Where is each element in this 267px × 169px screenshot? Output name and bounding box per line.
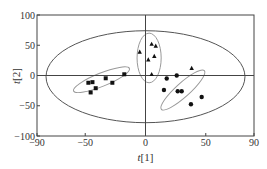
- square-marker: [90, 80, 94, 84]
- y-tick-label: −50: [19, 100, 35, 111]
- square-marker: [89, 90, 93, 94]
- x-tick-label: −50: [77, 137, 93, 148]
- circle-marker: [175, 73, 179, 77]
- x-axis-label: t[1]: [138, 151, 154, 163]
- triangle-marker: [154, 43, 158, 47]
- score-scatter-plot: −90−5005090 100500−50−100 t[1] t[2]: [0, 0, 267, 169]
- y-tick-label: 0: [30, 70, 35, 81]
- y-tick-label: −100: [14, 131, 35, 142]
- triangle-marker: [189, 66, 193, 70]
- circle-marker: [165, 76, 169, 80]
- x-tick-label: 50: [201, 137, 211, 148]
- circle-marker: [189, 102, 193, 106]
- circle-marker: [175, 89, 179, 93]
- y-tick-label: 50: [25, 40, 35, 51]
- square-marker: [110, 81, 114, 85]
- triangle-marker: [149, 42, 153, 46]
- circle-marker: [179, 89, 183, 93]
- triangle-marker: [149, 72, 153, 76]
- zero-lines: [37, 15, 254, 136]
- square-marker: [122, 72, 126, 76]
- circle-marker: [162, 88, 166, 92]
- x-tick-label: 0: [143, 137, 148, 148]
- y-tick-label: 100: [20, 10, 35, 21]
- ellipse-cluster-square: [71, 62, 132, 97]
- x-tick-label: 90: [249, 137, 259, 148]
- triangle-marker: [138, 50, 142, 54]
- square-marker: [86, 81, 90, 85]
- square-marker: [94, 86, 98, 90]
- circle-marker: [199, 95, 203, 99]
- triangle-marker: [146, 57, 150, 61]
- triangle-marker: [152, 54, 156, 58]
- y-axis-label: t[2]: [10, 68, 22, 84]
- x-axis-ticks: −90−5005090: [29, 133, 259, 148]
- square-marker: [104, 76, 108, 80]
